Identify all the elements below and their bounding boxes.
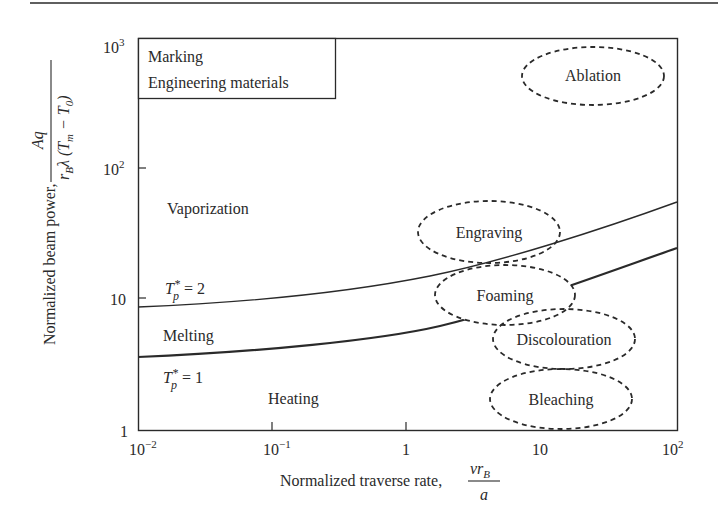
legend-line-marking: Marking <box>148 48 203 66</box>
y-axis-label: Normalized beam power, Aq rBλ (Tm − T0) <box>29 60 75 345</box>
label-tp-2: T*p= 2 <box>165 277 205 303</box>
svg-text:Normalized beam power,: Normalized beam power, <box>41 183 59 345</box>
label-tp-1: T*p= 1 <box>163 366 203 392</box>
xtick-0.01: 10−2 <box>129 438 157 458</box>
label-foaming: Foaming <box>477 287 534 305</box>
ytick-100: 102 <box>103 158 125 178</box>
ytick-1000: 103 <box>103 36 125 56</box>
label-bleaching: Bleaching <box>529 391 594 409</box>
label-ablation: Ablation <box>565 67 621 84</box>
xtick-1: 1 <box>402 441 410 458</box>
region-heating: Heating <box>268 390 319 408</box>
svg-text:Normalized traverse rate,: Normalized traverse rate, <box>280 472 442 489</box>
ytick-10: 10 <box>110 291 126 308</box>
ytick-1: 1 <box>120 423 128 440</box>
xtick-10: 10 <box>532 441 548 458</box>
x-axis: 10−2 10−1 1 10 102 <box>129 422 684 458</box>
region-melting: Melting <box>163 327 214 345</box>
x-axis-label: Normalized traverse rate, vrB a <box>280 460 500 503</box>
laser-marking-regime-chart: Marking Engineering materials 103 102 10… <box>0 0 718 526</box>
label-engraving: Engraving <box>456 224 523 242</box>
label-discolouration: Discolouration <box>516 331 611 348</box>
curve-tp-2 <box>138 202 677 307</box>
xtick-100: 102 <box>662 438 684 458</box>
xtick-0.1: 10−1 <box>263 438 291 458</box>
legend-line-engineering-materials: Engineering materials <box>148 74 289 92</box>
svg-text:vrB: vrB <box>470 460 490 480</box>
region-vaporization: Vaporization <box>167 200 249 218</box>
svg-text:Aq: Aq <box>29 131 47 150</box>
legend-box: Marking Engineering materials <box>139 39 336 99</box>
svg-text:a: a <box>480 486 488 503</box>
svg-text:rBλ (Tm − T0): rBλ (Tm − T0) <box>55 95 75 180</box>
